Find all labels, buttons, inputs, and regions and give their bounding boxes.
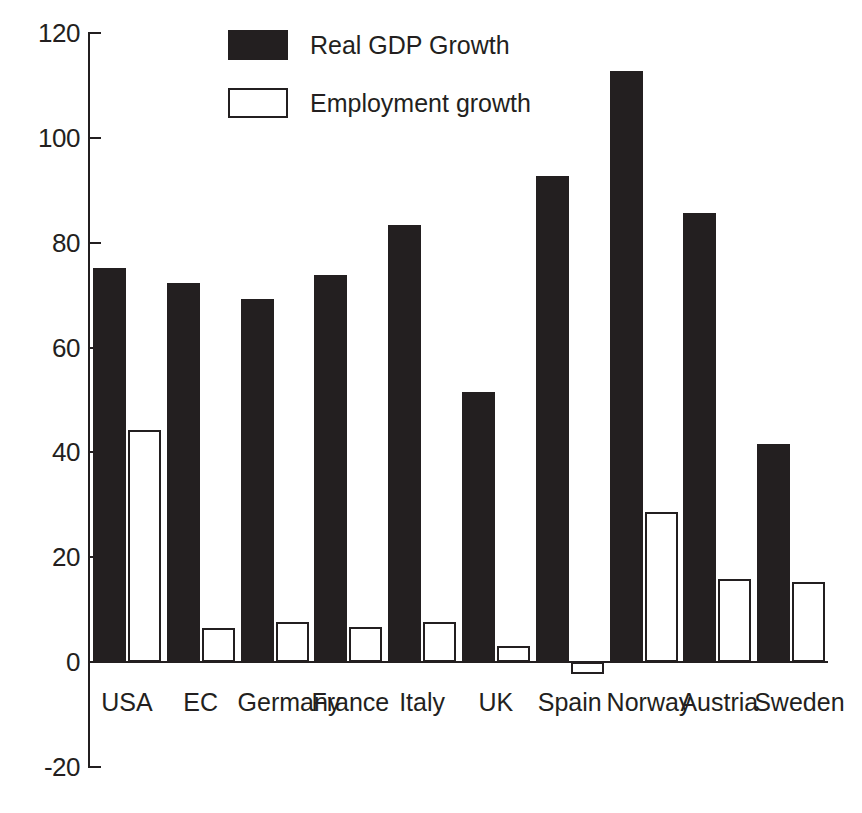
category-label-sweden: Sweden: [754, 690, 828, 715]
legend-swatch-filled-icon: [228, 30, 288, 60]
category-label-norway: Norway: [607, 690, 681, 715]
y-tick-label-wrap-100: 100: [0, 125, 80, 151]
y-tick-label-20: 20: [18, 544, 80, 570]
category-label-uk: UK: [459, 690, 533, 715]
y-tick-label-wrap-60: 60: [0, 335, 80, 361]
bar-group-sweden: [757, 33, 825, 662]
bar-group-germany: [241, 33, 309, 662]
bar-group-france: [314, 33, 382, 662]
y-tick-label-wrap-40: 40: [0, 439, 80, 465]
legend-label-real-gdp-growth: Real GDP Growth: [310, 28, 510, 62]
bar-spain-real-gdp-growth: [536, 176, 569, 662]
y-tick-label-wrap-80: 80: [0, 230, 80, 256]
bar-group-uk: [462, 33, 530, 662]
bar-ec-real-gdp-growth: [167, 283, 200, 662]
y-tick-label-120: 120: [18, 20, 80, 46]
category-label-ec: EC: [164, 690, 238, 715]
y-tick-label-wrap-0: 0: [0, 649, 80, 675]
bar-uk-real-gdp-growth: [462, 392, 495, 662]
bar-germany-real-gdp-growth: [241, 299, 274, 662]
category-label-spain: Spain: [533, 690, 607, 715]
y-tick-label-80: 80: [18, 230, 80, 256]
y-tick-label-40: 40: [18, 439, 80, 465]
bar-uk-employment-growth: [497, 646, 530, 662]
bar-group-usa: [93, 33, 161, 662]
category-label-france: France: [311, 690, 385, 715]
category-label-germany: Germany: [238, 690, 312, 715]
bar-italy-employment-growth: [423, 622, 456, 662]
bar-france-employment-growth: [349, 627, 382, 662]
bar-germany-employment-growth: [276, 622, 309, 662]
bar-austria-employment-growth: [718, 579, 751, 662]
bar-norway-employment-growth: [645, 512, 678, 662]
bar-sweden-real-gdp-growth: [757, 444, 790, 662]
bar-ec-employment-growth: [202, 628, 235, 662]
bar-usa-real-gdp-growth: [93, 268, 126, 662]
bar-italy-real-gdp-growth: [388, 225, 421, 662]
bar-austria-real-gdp-growth: [683, 213, 716, 662]
y-tick-label-0: 0: [18, 649, 80, 675]
bar-spain-employment-growth: [571, 662, 604, 674]
y-tick-label-wrap-120: 120: [0, 20, 80, 46]
legend-label-employment-growth: Employment growth: [310, 86, 531, 120]
y-tick-label-60: 60: [18, 335, 80, 361]
y-tick-label--20: -20: [18, 754, 80, 780]
category-label-austria: Austria: [680, 690, 754, 715]
legend-swatch-open-icon: [228, 88, 288, 118]
bar-norway-real-gdp-growth: [610, 71, 643, 662]
y-tick-label-wrap--20: -20: [0, 754, 80, 780]
bar-chart: 120100806040200-20 USAECGermanyFranceIta…: [0, 0, 862, 813]
bar-group-norway: [610, 33, 678, 662]
bar-sweden-employment-growth: [792, 582, 825, 662]
y-tick-label-wrap-20: 20: [0, 544, 80, 570]
y-tick--20: [88, 766, 101, 768]
bar-group-italy: [388, 33, 456, 662]
category-label-usa: USA: [90, 690, 164, 715]
y-tick-label-100: 100: [18, 125, 80, 151]
bar-france-real-gdp-growth: [314, 275, 347, 662]
bar-group-austria: [683, 33, 751, 662]
bar-group-spain: [536, 33, 604, 662]
category-label-italy: Italy: [385, 690, 459, 715]
bar-group-ec: [167, 33, 235, 662]
bar-usa-employment-growth: [128, 430, 161, 662]
plot-area: [90, 33, 828, 662]
